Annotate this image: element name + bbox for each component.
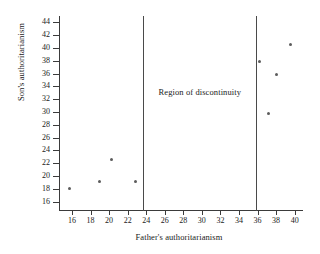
x-axis-tick-label: 20 bbox=[99, 216, 119, 225]
y-axis-tick-label: 22 bbox=[28, 159, 50, 167]
y-axis-tick bbox=[53, 112, 59, 113]
x-axis-tick bbox=[239, 210, 240, 215]
x-axis-tick bbox=[72, 210, 73, 215]
x-axis-tick bbox=[258, 210, 259, 215]
y-axis-tick bbox=[53, 202, 59, 203]
y-axis-tick bbox=[53, 35, 59, 36]
x-axis-tick-label: 26 bbox=[155, 216, 175, 225]
x-axis-tick bbox=[202, 210, 203, 215]
y-axis-tick bbox=[53, 48, 59, 49]
y-axis-tick bbox=[53, 163, 59, 164]
y-axis-tick-label: 42 bbox=[28, 31, 50, 39]
scatter-plot-figure: Son's authoritarianism Father's authorit… bbox=[0, 0, 320, 254]
data-point bbox=[68, 187, 71, 190]
x-axis-tick-label: 40 bbox=[285, 216, 305, 225]
x-axis-tick bbox=[220, 210, 221, 215]
y-axis-tick bbox=[53, 22, 59, 23]
x-axis-tick bbox=[165, 210, 166, 215]
y-axis-tick-label: 24 bbox=[28, 146, 50, 154]
y-axis-tick-label: 16 bbox=[28, 198, 50, 206]
data-point bbox=[258, 60, 261, 63]
data-point bbox=[267, 112, 270, 115]
discontinuity-boundary-line bbox=[143, 16, 144, 211]
x-axis-tick bbox=[128, 210, 129, 215]
y-axis-tick bbox=[53, 150, 59, 151]
x-axis-tick-label: 24 bbox=[136, 216, 156, 225]
y-axis-tick-label: 44 bbox=[28, 18, 50, 26]
y-axis-tick-label: 30 bbox=[28, 108, 50, 116]
y-axis-tick-label: 26 bbox=[28, 134, 50, 142]
x-axis-tick bbox=[91, 210, 92, 215]
y-axis-tick bbox=[53, 86, 59, 87]
y-axis-tick bbox=[53, 99, 59, 100]
x-axis-tick bbox=[146, 210, 147, 215]
x-axis-tick bbox=[183, 210, 184, 215]
x-axis-tick-label: 38 bbox=[266, 216, 286, 225]
data-point bbox=[98, 180, 101, 183]
x-axis-line bbox=[59, 210, 303, 211]
x-axis-tick-label: 28 bbox=[173, 216, 193, 225]
x-axis-tick bbox=[276, 210, 277, 215]
data-point bbox=[134, 180, 137, 183]
y-axis-tick-label: 40 bbox=[28, 44, 50, 52]
x-axis-tick-label: 32 bbox=[210, 216, 230, 225]
plot-area: 1618202224262830323436384042441618202224… bbox=[0, 0, 320, 254]
x-axis-tick-label: 30 bbox=[192, 216, 212, 225]
y-axis-tick-label: 36 bbox=[28, 70, 50, 78]
y-axis-tick-label: 20 bbox=[28, 172, 50, 180]
y-axis-tick bbox=[53, 125, 59, 126]
y-axis-tick-label: 32 bbox=[28, 95, 50, 103]
discontinuity-annotation: Region of discontinuity bbox=[159, 87, 242, 97]
y-axis-tick bbox=[53, 176, 59, 177]
discontinuity-boundary-line bbox=[256, 16, 257, 211]
y-axis-tick-label: 28 bbox=[28, 121, 50, 129]
x-axis-tick bbox=[109, 210, 110, 215]
y-axis-tick-label: 34 bbox=[28, 82, 50, 90]
x-axis-tick-label: 18 bbox=[81, 216, 101, 225]
y-axis-tick bbox=[53, 74, 59, 75]
y-axis-tick-label: 38 bbox=[28, 57, 50, 65]
x-axis-tick bbox=[295, 210, 296, 215]
y-axis-tick bbox=[53, 138, 59, 139]
x-axis-tick-label: 36 bbox=[248, 216, 268, 225]
data-point bbox=[289, 43, 292, 46]
data-point bbox=[110, 158, 113, 161]
x-axis-tick-label: 22 bbox=[118, 216, 138, 225]
y-axis-tick-label: 18 bbox=[28, 185, 50, 193]
x-axis-tick-label: 16 bbox=[62, 216, 82, 225]
data-point bbox=[275, 73, 278, 76]
x-axis-tick-label: 34 bbox=[229, 216, 249, 225]
y-axis-tick bbox=[53, 61, 59, 62]
y-axis-tick bbox=[53, 189, 59, 190]
y-axis-line bbox=[59, 16, 60, 211]
